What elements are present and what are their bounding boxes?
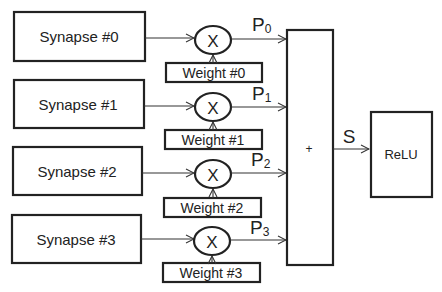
weight-label-1: Weight #1 [182, 132, 245, 148]
synapse-label-1: Synapse #1 [38, 96, 117, 113]
multiply-symbol-3: X [206, 233, 217, 252]
product-label-3: P3 [250, 217, 270, 239]
synapse-label-0: Synapse #0 [39, 28, 118, 45]
multiply-symbol-1: X [207, 99, 218, 118]
product-label-0: P0 [252, 14, 272, 36]
row-3: Synapse #3 X Weight #3 P3 [12, 215, 286, 282]
product-label-2: P2 [251, 149, 271, 171]
weight-label-2: Weight #2 [181, 200, 244, 216]
adder-symbol: + [305, 142, 312, 156]
relu-label: ReLU [384, 147, 417, 162]
neuron-diagram: Synapse #0 X Weight #0 P0 Synapse #1 X W… [0, 0, 442, 292]
row-2: Synapse #2 X Weight #2 P2 [13, 147, 286, 217]
weight-label-3: Weight #3 [180, 265, 243, 281]
sum-label: S [343, 126, 356, 147]
product-label-1: P1 [252, 83, 272, 105]
row-0: Synapse #0 X Weight #0 P0 [14, 12, 286, 82]
multiply-symbol-2: X [207, 166, 218, 185]
multiply-symbol-0: X [207, 32, 218, 51]
synapse-label-3: Synapse #3 [36, 231, 115, 248]
synapse-label-2: Synapse #2 [37, 163, 116, 180]
row-1: Synapse #1 X Weight #1 P1 [14, 80, 286, 149]
weight-label-0: Weight #0 [183, 65, 246, 81]
